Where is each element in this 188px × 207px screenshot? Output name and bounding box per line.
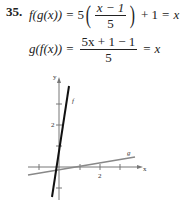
x-tick-label: 2 [98,172,102,180]
f-label: f [72,97,75,105]
line-g [28,157,135,175]
y-axis-label: y [53,73,57,81]
function-graph: y x f g 2 2 [0,0,188,207]
x-axis-label: x [143,165,147,173]
g-label: g [127,149,131,157]
y-tick-label: 2 [51,121,55,129]
line-f [52,86,69,197]
y-axis-arrow-icon [57,77,61,83]
